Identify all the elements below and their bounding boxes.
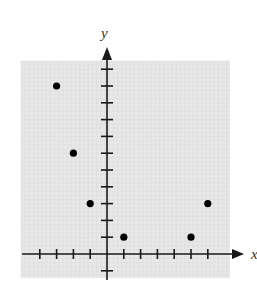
x-axis-arrow-icon bbox=[232, 249, 244, 259]
plot-background bbox=[21, 61, 230, 278]
y-axis-label: y bbox=[99, 25, 108, 41]
data-point bbox=[120, 234, 127, 241]
x-axis-label: x bbox=[250, 246, 257, 262]
data-point bbox=[187, 234, 194, 241]
y-axis-arrow-icon bbox=[102, 47, 112, 60]
scatter-plot: y x bbox=[0, 0, 257, 295]
data-point bbox=[70, 150, 77, 157]
data-point bbox=[87, 200, 94, 207]
data-point bbox=[204, 200, 211, 207]
data-point bbox=[53, 82, 60, 89]
